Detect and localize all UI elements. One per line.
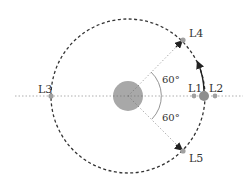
point-l4 (180, 37, 185, 42)
label-l5: L5 (189, 152, 203, 165)
label-l1: L1 (188, 82, 202, 95)
angle-label-upper: 60° (162, 74, 180, 85)
label-l3: L3 (38, 83, 52, 96)
angle-arc (151, 72, 161, 119)
lagrange-diagram: L1 L2 L3 L4 L5 60° 60° (0, 0, 252, 183)
angle-label-lower: 60° (162, 112, 180, 123)
label-l2: L2 (209, 82, 223, 95)
label-l4: L4 (189, 27, 203, 40)
point-l5 (180, 148, 185, 153)
arrow-l5 (176, 145, 181, 149)
arrow-l4 (176, 42, 181, 47)
